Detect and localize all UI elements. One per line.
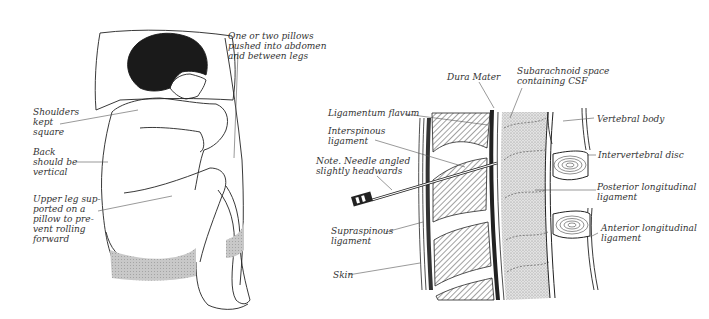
- leg-pillow: [110, 248, 196, 281]
- diagram-stage: One or two pillows pushed into abdomen a…: [0, 0, 709, 319]
- skin-layers: [419, 118, 426, 290]
- label-shoulders: Shoulders kept square: [33, 107, 79, 137]
- thigh: [124, 168, 226, 262]
- back: [101, 112, 114, 262]
- leg-pillow-right: [226, 222, 244, 258]
- vertebral-body: [548, 108, 598, 290]
- foot: [196, 262, 248, 309]
- label-vertebral-body: Vertebral body: [597, 114, 664, 124]
- label-note: Note. Needle angled slightly headwards: [316, 156, 410, 176]
- supraspinous-band: [426, 118, 433, 290]
- label-back: Back should be vertical: [33, 147, 77, 177]
- label-anterior-ligament: Anterior longitudinal ligament: [601, 223, 697, 243]
- hair: [128, 33, 208, 91]
- subarachnoid-space: [501, 112, 550, 300]
- spinous-process-3: [434, 222, 491, 286]
- label-upper-leg: Upper leg sup- ported on a pillow to pre…: [33, 194, 101, 244]
- label-dura-mater: Dura Mater: [447, 72, 500, 82]
- label-skin: Skin: [333, 270, 353, 280]
- label-interspinous: Interspinous ligament: [328, 126, 386, 146]
- arm: [140, 127, 204, 152]
- label-posterior-ligament: Posterior longitudinal ligament: [597, 182, 696, 202]
- label-intervertebral-disc: Intervertebral disc: [598, 150, 684, 160]
- label-pillows: One or two pillows pushed into abdomen a…: [228, 31, 326, 61]
- label-supraspinous: Supraspinous ligament: [331, 226, 393, 246]
- label-subarachnoid: Subarachnoid space containing CSF: [517, 66, 609, 86]
- intervertebral-disc-2: [553, 211, 590, 238]
- label-ligamentum-flavum: Ligamentum flavum: [328, 108, 419, 118]
- intervertebral-disc-1: [553, 151, 588, 180]
